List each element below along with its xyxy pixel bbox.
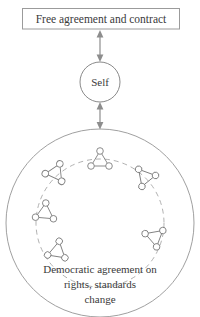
self-to-community-arrow-head-down	[97, 122, 104, 130]
cluster-node-a	[42, 199, 49, 206]
cluster-node-b	[41, 169, 50, 178]
cluster-node-a	[60, 253, 69, 262]
caption-line-2: rights, standards	[64, 278, 136, 290]
cluster-node-c	[134, 165, 142, 173]
cluster-node-a	[55, 159, 64, 168]
self-label: Self	[91, 76, 109, 88]
group-cluster-upper-left	[41, 156, 72, 186]
diagram-canvas: Free agreement and contract Self	[0, 0, 200, 317]
box-to-self-arrow-head-down	[97, 55, 104, 63]
group-cluster-upper-right	[129, 165, 160, 194]
caption-line-1: Democratic agreement on	[43, 263, 157, 275]
cluster-node-a	[97, 148, 104, 155]
cluster-node-c	[50, 215, 57, 222]
free-agreement-label: Free agreement and contract	[36, 13, 167, 26]
group-cluster-top	[88, 148, 113, 170]
cluster-node-b	[88, 163, 95, 170]
cluster-node-b	[32, 214, 39, 221]
self-to-community-arrow-head-up	[97, 102, 104, 110]
group-cluster-lower-right	[141, 227, 169, 253]
caption-line-3: change	[84, 293, 115, 305]
box-to-self-arrow	[97, 30, 104, 62]
cluster-node-b	[159, 227, 167, 235]
cluster-node-c	[57, 177, 66, 186]
group-cluster-left	[32, 199, 58, 223]
cluster-node-c	[106, 163, 113, 170]
box-to-self-arrow-head-up	[97, 30, 104, 38]
self-to-community-arrow	[97, 102, 104, 130]
